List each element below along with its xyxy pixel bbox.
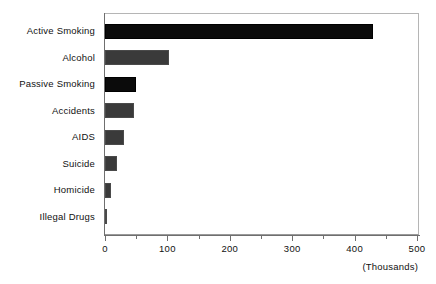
category-label-row: Illegal Drugs [0,204,100,231]
category-label-row: Homicide [0,177,100,204]
category-label-passive-smoking: Passive Smoking [19,79,95,89]
category-label-illegal-drugs: Illegal Drugs [40,212,95,222]
x-axis-tick-label: 200 [221,243,238,254]
category-label-row: Passive Smoking [0,71,100,98]
bar-aids [105,130,124,145]
x-axis-tick-label: 500 [409,243,426,254]
bar-suicide [105,156,117,171]
x-axis-tick-label: 300 [284,243,301,254]
category-axis: Active Smoking Alcohol Passive Smoking A… [0,18,100,230]
bar-active-smoking [105,24,373,39]
x-axis-major-tick [230,236,231,241]
bar-row [105,177,417,204]
x-axis-tick-label: 0 [102,243,108,254]
x-axis-tick-label: 100 [159,243,176,254]
x-axis-major-tick [105,236,106,241]
bar-row [105,151,417,178]
category-label-accidents: Accidents [52,106,95,116]
bar-passive-smoking [105,77,136,92]
x-axis-ticks [105,236,417,242]
bar-chart: Active Smoking Alcohol Passive Smoking A… [0,0,436,284]
category-label-homicide: Homicide [54,185,95,195]
category-label-row: Accidents [0,98,100,125]
bar-row [105,98,417,125]
category-label-row: Suicide [0,151,100,178]
x-axis-units-caption: (Thousands) [362,261,418,272]
x-axis-major-tick [355,236,356,241]
category-label-active-smoking: Active Smoking [27,26,95,36]
x-axis-minor-tick [199,236,200,239]
x-axis-minor-tick [136,236,137,239]
category-label-row: AIDS [0,124,100,151]
x-axis-tick-label: 400 [346,243,363,254]
category-label-row: Alcohol [0,45,100,72]
bar-row [105,45,417,72]
bar-alcohol [105,50,169,65]
category-label-suicide: Suicide [62,159,95,169]
bars-layer [105,18,417,230]
category-label-aids: AIDS [72,132,95,142]
bar-row [105,124,417,151]
category-label-row: Active Smoking [0,18,100,45]
bar-row [105,18,417,45]
bar-accidents [105,103,134,118]
x-axis-minor-tick [386,236,387,239]
x-axis-tick-labels: 0100200300400500 [0,243,436,257]
x-axis-major-tick [417,236,418,241]
x-axis-major-tick [292,236,293,241]
x-axis-major-tick [167,236,168,241]
bar-illegal-drugs [105,209,107,224]
x-axis-minor-tick [261,236,262,239]
bar-row [105,204,417,231]
bar-homicide [105,183,111,198]
x-axis-minor-tick [323,236,324,239]
bar-row [105,71,417,98]
category-label-alcohol: Alcohol [62,53,95,63]
